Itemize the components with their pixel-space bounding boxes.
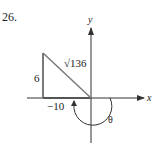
angle-arc: [74, 98, 112, 125]
vertical-side-label: 6: [34, 72, 40, 84]
y-axis-label: y: [87, 14, 93, 25]
diagram-canvas: 26. x y 6 −10 √136 θ: [0, 0, 157, 150]
hypotenuse-label: √136: [64, 57, 87, 69]
theta-label: θ: [108, 114, 113, 125]
problem-number: 26.: [2, 10, 17, 24]
horizontal-side-label: −10: [47, 100, 65, 112]
x-axis-label: x: [146, 92, 152, 103]
